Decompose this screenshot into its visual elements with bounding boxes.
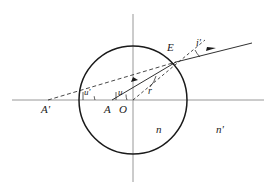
refracted-ray-arrowhead (206, 47, 216, 51)
diagram-canvas (0, 0, 274, 192)
label-angle-u-prime: u' (84, 88, 90, 97)
label-refractive-index-n-prime: n' (216, 124, 224, 135)
angle-arc-u (126, 95, 127, 101)
refracted-ray (176, 43, 252, 62)
label-angle-r: r (148, 86, 152, 96)
label-vertex-o: O (119, 104, 127, 115)
label-angle-i-prime: i' (196, 38, 201, 48)
label-incidence-point-e: E (167, 42, 174, 53)
refraction-diagram: A' u' u A O r E i' n n' (0, 0, 274, 192)
label-image-point-a-prime: A' (41, 104, 50, 115)
virtual-ray-dashed (48, 62, 176, 100)
label-refractive-index-n: n (156, 124, 162, 135)
angle-arc-i-prime (195, 50, 200, 57)
incident-ray-arrowhead (131, 77, 138, 82)
label-angle-u: u (118, 88, 123, 97)
label-object-point-a: A (104, 104, 111, 115)
angle-arc-u-prime (94, 96, 95, 100)
